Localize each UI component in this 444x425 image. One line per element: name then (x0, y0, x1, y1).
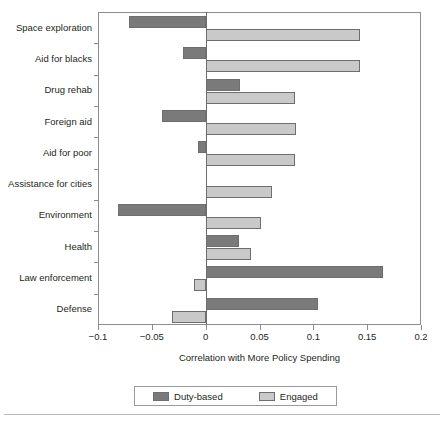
x-axis-tick-label: −0.05 (140, 331, 164, 343)
bar-row (98, 141, 421, 172)
x-axis-title: Correlation with More Policy Spending (98, 352, 421, 363)
bar-row (98, 173, 421, 204)
bar-engaged (206, 186, 273, 198)
bar-duty (198, 141, 206, 153)
y-axis-tick (94, 169, 98, 170)
legend-label-engaged: Engaged (280, 391, 318, 402)
x-axis-tick (152, 325, 153, 330)
x-axis-tick-label: 0.1 (307, 331, 320, 343)
y-axis-label: Space exploration (16, 22, 92, 33)
y-axis-tick (94, 294, 98, 295)
legend-item-duty-based: Duty-based (153, 391, 223, 402)
y-axis-tick (94, 75, 98, 76)
bar-row (98, 235, 421, 266)
x-axis-tick (367, 325, 368, 330)
y-axis-tick (94, 231, 98, 232)
bar-duty (118, 204, 205, 216)
bar-engaged (206, 60, 360, 72)
legend-item-engaged: Engaged (259, 391, 318, 402)
bar-row (98, 16, 421, 47)
bar-engaged (206, 123, 296, 135)
y-axis-label: Aid for poor (43, 147, 92, 158)
x-axis-tick-label: 0.2 (414, 331, 427, 343)
bar-engaged (206, 92, 295, 104)
y-axis-tick (94, 137, 98, 138)
y-axis-label: Foreign aid (44, 116, 92, 127)
y-axis-label: Environment (39, 209, 92, 220)
x-axis-tick (313, 325, 314, 330)
bar-duty (206, 266, 384, 278)
x-axis-tick (206, 325, 207, 330)
x-axis-tick-label: 0.15 (358, 331, 377, 343)
bar-duty (162, 110, 206, 122)
bar-duty (183, 47, 206, 59)
x-axis-tick-label: 0.05 (250, 331, 269, 343)
bottom-divider (4, 414, 440, 415)
x-axis-tick (260, 325, 261, 330)
x-axis-tick (421, 325, 422, 330)
x-axis-tick-label: −0.1 (89, 331, 108, 343)
legend-swatch-engaged (259, 392, 275, 401)
x-axis-tick-label: 0 (203, 331, 208, 343)
bar-engaged (206, 29, 360, 41)
chart-legend: Duty-based Engaged (134, 386, 337, 406)
y-axis-labels: Space explorationAid for blacksDrug reha… (0, 12, 92, 325)
y-axis-tick (94, 262, 98, 263)
bar-duty (206, 79, 240, 91)
bar-engaged (206, 217, 261, 229)
y-axis-tick (94, 43, 98, 44)
y-axis-tick (94, 200, 98, 201)
x-axis-tick (98, 325, 99, 330)
bar-row (98, 79, 421, 110)
bar-duty (206, 235, 239, 247)
legend-label-duty-based: Duty-based (174, 391, 223, 402)
bar-row (98, 204, 421, 235)
bar-engaged (194, 279, 206, 291)
bar-duty (129, 16, 205, 28)
y-axis-label: Aid for blacks (35, 53, 92, 64)
y-axis-label: Drug rehab (44, 84, 92, 95)
bar-engaged (172, 311, 205, 323)
bar-duty (206, 298, 318, 310)
bar-engaged (206, 154, 295, 166)
chart-figure: Space explorationAid for blacksDrug reha… (0, 0, 444, 425)
y-axis-label: Health (65, 241, 92, 252)
bar-row (98, 266, 421, 297)
plot-area (98, 12, 421, 325)
x-axis-tick-labels: −0.1−0.0500.050.10.150.2 (98, 331, 421, 345)
y-axis-label: Assistance for cities (8, 178, 92, 189)
bar-row (98, 110, 421, 141)
legend-swatch-duty-based (153, 392, 169, 401)
y-axis-tick (94, 106, 98, 107)
bar-row (98, 47, 421, 78)
bar-rows (98, 12, 421, 325)
y-axis-label: Law enforcement (19, 272, 92, 283)
y-axis-label: Defense (57, 303, 92, 314)
bar-engaged (206, 248, 251, 260)
